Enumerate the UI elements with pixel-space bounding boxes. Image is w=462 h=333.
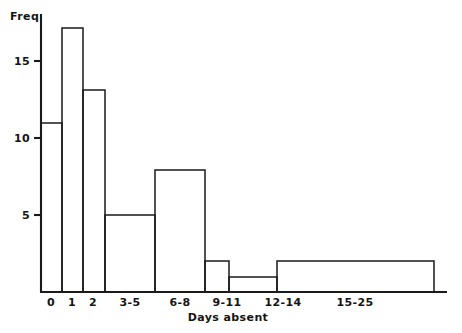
plot-area [0,0,462,333]
bar-2 [83,90,105,292]
x-tick-label-12-14: 12-14 [264,297,301,308]
y-tick-label-15: 15 [4,56,30,67]
x-tick-label-3-5: 3-5 [119,297,140,308]
x-tick-label-9-11: 9-11 [212,297,241,308]
bar-15-25 [277,261,434,292]
bar-0 [41,123,62,292]
y-tick-label-5: 5 [4,210,30,221]
bar-12-14 [229,277,277,292]
y-tick-label-10: 10 [4,133,30,144]
x-tick-label-6-8: 6-8 [169,297,190,308]
x-axis-title: Days absent [188,312,269,323]
x-tick-label-15-25: 15-25 [336,297,373,308]
bar-9-11 [205,261,229,292]
x-tick-label-2: 2 [89,297,97,308]
y-axis-title: Freq [10,11,39,22]
x-tick-label-0: 0 [47,297,55,308]
bar-1 [62,28,83,292]
x-tick-label-1: 1 [68,297,76,308]
histogram-chart: Freq 15 10 5 0 1 2 3-5 6-8 9-11 12-14 15… [0,0,462,333]
bar-6-8 [155,170,205,292]
bar-3-5 [105,215,155,292]
